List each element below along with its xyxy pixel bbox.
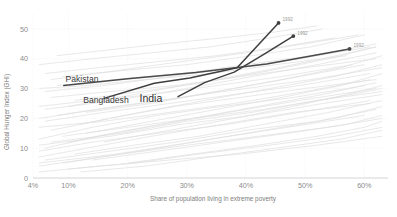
y-tick-label: 30 (20, 84, 28, 93)
background-series-line (80, 130, 382, 172)
series-year-label-bangladesh: 1992 (283, 17, 294, 22)
y-tick-label: 40 (20, 54, 28, 63)
y-tick-label: 20 (20, 114, 28, 123)
x-tick-label: 4% (28, 181, 39, 190)
x-tick-label: 30% (180, 181, 195, 190)
x-tick-label: 40% (239, 181, 254, 190)
series-label-india: India (140, 92, 163, 104)
y-tick-label: 50 (20, 25, 28, 34)
series-endpoint-bangladesh[interactable] (277, 21, 281, 25)
chart-container: 199219921992 010203040504%10%20%30%40%50… (0, 0, 397, 217)
tick-labels-group: 010203040504%10%20%30%40%50%60% (20, 25, 372, 190)
series-year-label-pakistan: 1992 (354, 43, 365, 48)
series-label-bangladesh: Bangladesh (83, 95, 129, 105)
x-tick-label: 20% (120, 181, 135, 190)
x-tick-label: 10% (61, 181, 76, 190)
x-tick-label: 60% (357, 181, 372, 190)
hunger-poverty-scatter-chart: 199219921992 010203040504%10%20%30%40%50… (0, 0, 397, 217)
x-tick-label: 50% (298, 181, 313, 190)
y-tick-label: 10 (20, 144, 28, 153)
background-series-line (128, 121, 382, 163)
x-axis-title: Share of population living in extreme po… (150, 195, 277, 203)
y-axis-title: Global Hunger Index (GHI) (3, 74, 11, 150)
series-labels-group: PakistanBangladeshIndia (66, 74, 163, 105)
series-endpoint-india[interactable] (291, 34, 295, 38)
series-endpoint-pakistan[interactable] (348, 47, 352, 51)
background-series-line (39, 101, 370, 152)
series-label-pakistan: Pakistan (66, 74, 99, 84)
series-year-label-india: 1992 (297, 31, 308, 36)
background-series-line (45, 38, 335, 74)
